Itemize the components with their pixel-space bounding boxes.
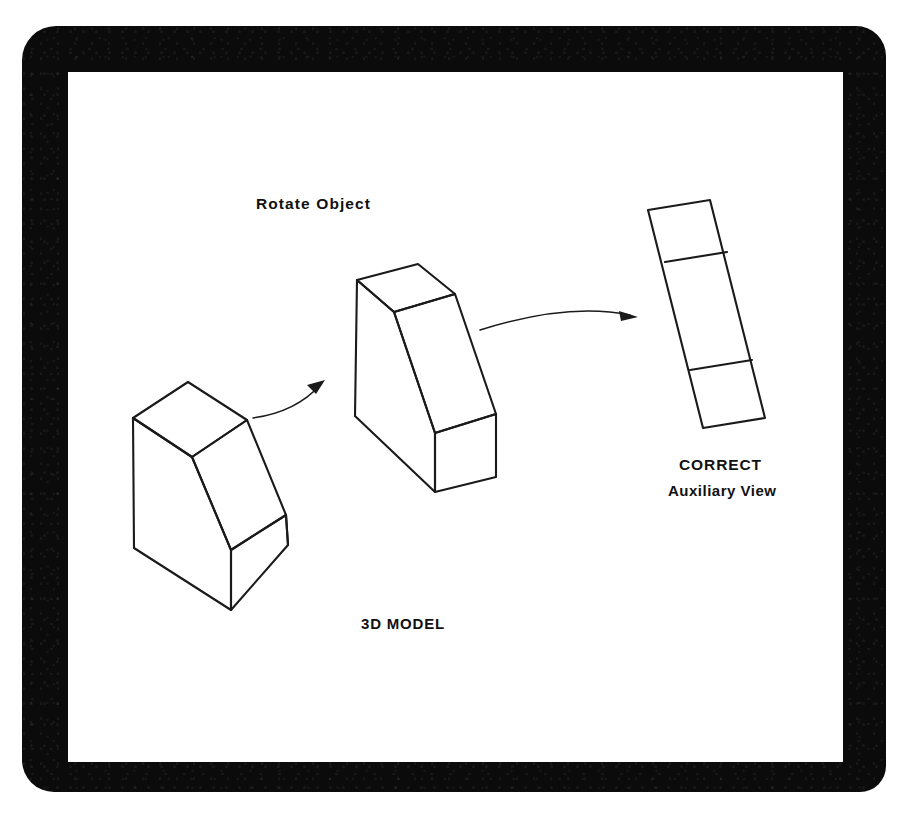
model2-top-face [357, 264, 455, 312]
auxiliary-outline [648, 200, 765, 428]
model1-top-face [133, 382, 247, 457]
technical-drawing-svg [68, 72, 843, 762]
arrow-rotated-to-auxiliary [480, 311, 638, 330]
arrow1-shaft [253, 385, 320, 418]
auxiliary-division-line-lower [690, 360, 752, 370]
model1-inclined-face [192, 420, 286, 550]
isometric-model-rotated [355, 264, 496, 492]
label-3d-model: 3D MODEL [361, 615, 445, 632]
label-rotate-object: Rotate Object [256, 195, 371, 213]
model1-right-edge [286, 515, 288, 545]
model1-front-face [133, 418, 231, 610]
arrow-model-to-rotated [253, 380, 325, 418]
arrow2-shaft [480, 311, 630, 330]
label-correct: CORRECT [679, 456, 762, 474]
drawing-surface: Rotate Object 3D MODEL CORRECT Auxiliary… [68, 72, 843, 762]
model1-right-face [231, 515, 288, 610]
label-auxiliary-view: Auxiliary View [668, 482, 776, 499]
figure-root: Rotate Object 3D MODEL CORRECT Auxiliary… [0, 0, 911, 829]
model2-right-face [435, 414, 496, 492]
arrow2-head [619, 311, 638, 321]
model2-front-face [355, 280, 435, 492]
auxiliary-view-result [648, 200, 765, 428]
model2-inclined-face [394, 294, 496, 433]
auxiliary-division-line-upper [665, 252, 727, 262]
arrow1-head [307, 380, 325, 394]
